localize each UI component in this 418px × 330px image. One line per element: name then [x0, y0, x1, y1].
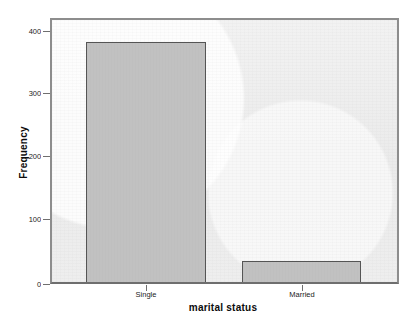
- y-tick-label-200: 200: [25, 152, 41, 161]
- bar-chart: Frequency 400 300 200 100 0 Single Marri…: [0, 0, 418, 330]
- y-tick-label-0: 0: [25, 280, 41, 289]
- y-tick-mark-100: [43, 219, 50, 220]
- y-tick-label-100: 100: [25, 215, 41, 224]
- bar-married: [242, 261, 361, 282]
- y-tick-label-400: 400: [25, 27, 41, 36]
- x-tick-label-married: Married: [289, 290, 314, 299]
- x-axis-title: marital status: [0, 302, 418, 313]
- y-tick-mark-400: [43, 31, 50, 32]
- y-tick-mark-300: [43, 93, 50, 94]
- y-tick-label-300: 300: [25, 89, 41, 98]
- x-tick-label-single: Single: [136, 290, 157, 299]
- plot-background: [52, 20, 397, 282]
- x-axis-title-label: marital status: [189, 302, 258, 313]
- y-tick-mark-0: [43, 284, 50, 285]
- y-tick-mark-200: [43, 156, 50, 157]
- bar-single: [86, 42, 206, 282]
- plot-area: [50, 18, 399, 284]
